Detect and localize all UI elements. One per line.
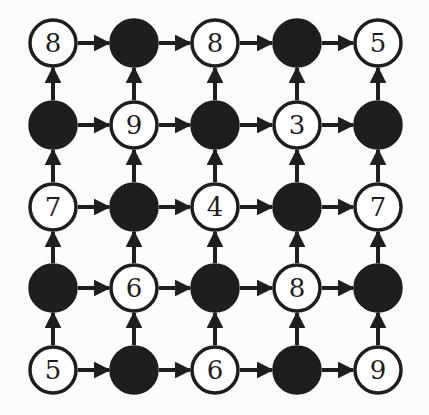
numbered-node: 7: [30, 184, 76, 230]
filled-node: [111, 20, 157, 66]
node-label: 3: [289, 110, 306, 140]
numbered-node: 9: [111, 102, 157, 148]
numbered-node: 7: [355, 184, 401, 230]
filled-node: [30, 265, 76, 311]
node-circle: [30, 102, 76, 148]
node-circle: [355, 102, 401, 148]
node-label: 8: [289, 273, 306, 303]
numbered-node: 6: [192, 347, 238, 393]
numbered-node: 9: [355, 347, 401, 393]
filled-node: [192, 265, 238, 311]
node-label: 5: [370, 28, 387, 58]
node-label: 8: [207, 28, 224, 58]
node-circle: [192, 102, 238, 148]
numbered-node: 6: [111, 265, 157, 311]
filled-node: [355, 102, 401, 148]
node-circle: [192, 265, 238, 311]
node-label: 8: [45, 28, 62, 58]
filled-node: [192, 102, 238, 148]
node-circle: [355, 265, 401, 311]
node-label: 4: [207, 192, 224, 222]
grid-graph-diagram: 8859374768569: [0, 0, 429, 415]
node-circle: [274, 184, 320, 230]
filled-node: [111, 347, 157, 393]
numbered-node: 3: [274, 102, 320, 148]
numbered-node: 8: [192, 20, 238, 66]
node-label: 6: [207, 355, 224, 385]
filled-node: [355, 265, 401, 311]
filled-node: [111, 184, 157, 230]
numbered-node: 8: [274, 265, 320, 311]
node-circle: [30, 265, 76, 311]
filled-node: [274, 184, 320, 230]
node-circle: [111, 184, 157, 230]
node-label: 5: [45, 355, 62, 385]
filled-node: [274, 347, 320, 393]
node-label: 7: [370, 192, 387, 222]
filled-node: [274, 20, 320, 66]
node-label: 9: [370, 355, 387, 385]
node-circle: [111, 20, 157, 66]
numbered-node: 8: [30, 20, 76, 66]
numbered-node: 5: [30, 347, 76, 393]
node-label: 6: [126, 273, 143, 303]
filled-node: [30, 102, 76, 148]
node-label: 7: [45, 192, 62, 222]
node-circle: [274, 20, 320, 66]
node-label: 9: [126, 110, 143, 140]
node-circle: [111, 347, 157, 393]
numbered-node: 4: [192, 184, 238, 230]
node-circle: [274, 347, 320, 393]
numbered-node: 5: [355, 20, 401, 66]
